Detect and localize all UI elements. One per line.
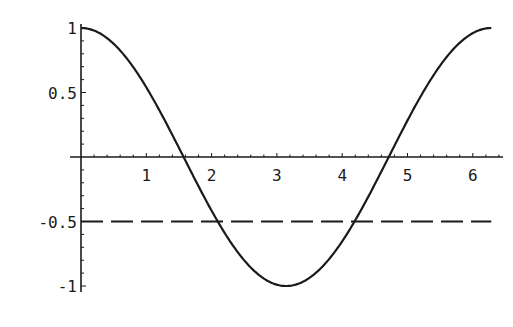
axes xyxy=(70,24,503,292)
x-tick-label: 3 xyxy=(272,166,282,185)
y-tick-label: 0.5 xyxy=(48,84,77,103)
x-tick-label: 1 xyxy=(141,166,151,185)
x-tick-label: 4 xyxy=(337,166,347,185)
x-tick-label: 5 xyxy=(403,166,413,185)
y-tick-label: -0.5 xyxy=(38,213,77,232)
cosine-plot: 12345610.5-0.5-1 xyxy=(0,0,513,327)
x-tick-label: 6 xyxy=(468,166,478,185)
x-tick-label: 2 xyxy=(207,166,217,185)
y-tick-label: -1 xyxy=(58,277,77,296)
y-tick-label: 1 xyxy=(67,19,77,38)
